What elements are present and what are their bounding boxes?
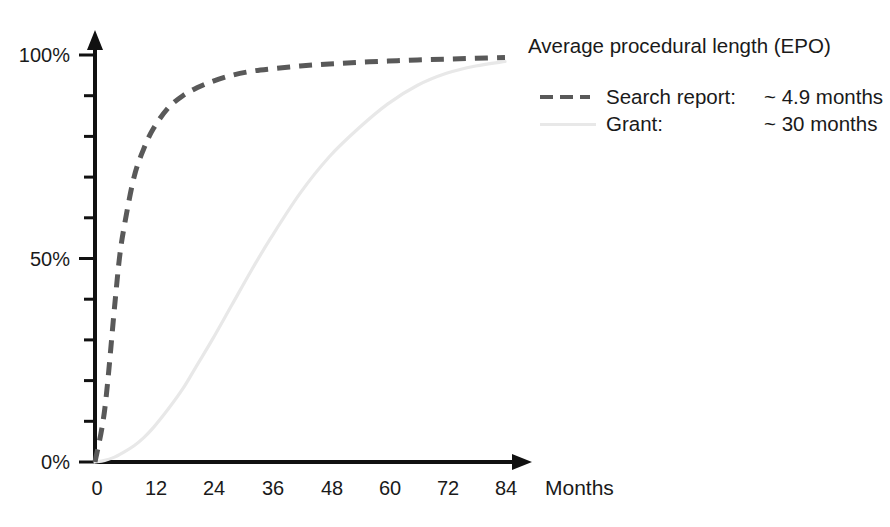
x-axis [95, 454, 532, 470]
legend-entries: Search report: ~ 4.9 months Grant: ~ 30 … [540, 83, 873, 137]
legend-value-grant: ~ 30 months [764, 112, 877, 136]
y-tick-label-50: 50% [30, 248, 70, 270]
dashed-line-swatch [540, 91, 596, 103]
x-tick-label-84: 84 [495, 477, 517, 499]
legend: Average procedural length (EPO) Search r… [528, 33, 873, 137]
x-tick-label-60: 60 [379, 477, 401, 499]
x-tick-label-24: 24 [203, 477, 225, 499]
y-axis-ticks [79, 55, 95, 462]
chart-container: 100% 50% 0% 0 12 24 36 48 60 72 84 Month… [0, 0, 890, 527]
x-tick-label-36: 36 [262, 477, 284, 499]
x-tick-label-72: 72 [437, 477, 459, 499]
y-tick-label-100: 100% [19, 44, 70, 66]
x-axis-title: Months [545, 476, 614, 499]
solid-line-swatch [540, 118, 596, 130]
x-tick-label-0: 0 [91, 477, 102, 499]
legend-value-search-report: ~ 4.9 months [764, 85, 883, 109]
legend-item-search-report: Search report: ~ 4.9 months [540, 83, 873, 110]
legend-item-grant: Grant: ~ 30 months [540, 110, 873, 137]
legend-title: Average procedural length (EPO) [528, 33, 873, 59]
legend-label-grant: Grant: [606, 112, 764, 136]
legend-label-search-report: Search report: [606, 85, 764, 109]
x-tick-label-12: 12 [145, 477, 167, 499]
series-line-grant [95, 62, 505, 462]
y-tick-label-0: 0% [41, 451, 70, 473]
series-line-search-report [95, 57, 505, 462]
x-tick-label-48: 48 [321, 477, 343, 499]
